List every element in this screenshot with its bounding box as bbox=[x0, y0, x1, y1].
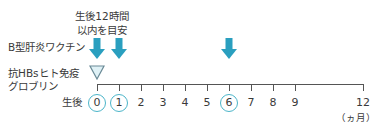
month-label-12: 12 bbox=[353, 96, 373, 110]
tick-7 bbox=[251, 84, 252, 91]
vaccine-arrow-icon bbox=[221, 38, 237, 60]
month-label-8: 8 bbox=[263, 96, 283, 110]
hbig-row-label-line2: グロブリン bbox=[8, 80, 58, 93]
tick-6 bbox=[229, 84, 230, 91]
timeline-axis bbox=[97, 84, 364, 85]
axis-prefix: 生後 bbox=[62, 96, 82, 109]
axis-unit: （ヵ月） bbox=[336, 110, 376, 124]
timing-note: 生後12時間 以内を目安 bbox=[64, 10, 140, 37]
month-label-3: 3 bbox=[153, 96, 173, 110]
vaccine-arrow-icon bbox=[111, 38, 127, 60]
month-label-1: 1 bbox=[109, 96, 129, 110]
month-label-6: 6 bbox=[219, 96, 239, 110]
tick-4 bbox=[185, 84, 186, 91]
tick-0 bbox=[97, 84, 98, 91]
vaccine-arrow-icon bbox=[89, 38, 105, 60]
tick-2 bbox=[141, 84, 142, 91]
tick-1 bbox=[119, 84, 120, 91]
month-label-9: 9 bbox=[285, 96, 305, 110]
hbig-row-label-line1: 抗HBsヒト免疫 bbox=[8, 67, 79, 80]
tick-3 bbox=[163, 84, 164, 91]
month-label-2: 2 bbox=[131, 96, 151, 110]
month-label-0: 0 bbox=[87, 96, 107, 110]
vaccine-row-label: B型肝炎ワクチン bbox=[8, 41, 85, 54]
tick-9 bbox=[295, 84, 296, 91]
month-label-7: 7 bbox=[241, 96, 261, 110]
tick-8 bbox=[273, 84, 274, 91]
month-label-5: 5 bbox=[197, 96, 217, 110]
tick-5 bbox=[207, 84, 208, 91]
hbig-triangle-icon bbox=[89, 65, 105, 80]
timing-note-line2: 以内を目安 bbox=[64, 24, 140, 38]
tick-12 bbox=[363, 84, 364, 91]
month-label-4: 4 bbox=[175, 96, 195, 110]
timing-note-line1: 生後12時間 bbox=[64, 10, 140, 24]
